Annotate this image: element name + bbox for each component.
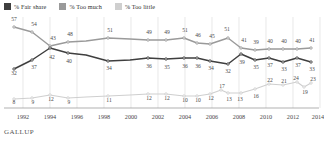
data-point-too-much [13,26,15,28]
value-label-too-much: 41 [309,37,315,43]
legend-swatch-icon [115,3,122,10]
value-label-fair-share: 40 [66,58,72,64]
data-point-too-much [31,31,33,33]
legend-label-too-much: % Too much [69,3,101,10]
data-point-fair-share [165,58,167,60]
x-axis-tick-label: 2000 [125,113,137,120]
value-label-too-much: 40 [281,38,287,44]
value-label-too-little: 13 [237,96,243,102]
value-label-too-little: 9 [32,99,35,105]
value-label-too-little: 11 [106,97,111,103]
value-label-too-much: 40 [295,38,301,44]
x-axis-tick-label: 1998 [98,113,110,120]
value-label-too-much: 49 [146,29,152,35]
data-point-too-much [254,49,256,51]
data-point-fair-share [183,57,185,59]
value-label-too-little: 16 [253,93,259,99]
value-label-too-little: 23 [310,76,316,82]
data-point-too-much [183,37,185,39]
source-attribution: GALLUP [4,128,34,136]
value-label-too-much: 57 [11,16,17,22]
data-point-too-much [165,39,167,41]
legend-label-too-little: % Too little [125,3,155,10]
plot-area: 8912911121210101217131316222124192357544… [0,17,323,112]
data-point-fair-share [196,57,198,59]
value-label-fair-share: 34 [106,65,112,71]
value-label-too-much: 49 [164,29,170,35]
value-label-fair-share: 42 [49,54,55,60]
data-point-too-much [240,47,242,49]
data-point-fair-share [282,61,284,63]
value-label-too-little: 17 [219,83,225,89]
data-point-fair-share [268,57,270,59]
data-point-fair-share [67,52,69,54]
value-label-fair-share: 33 [281,66,287,72]
value-label-fair-share: 35 [164,64,170,70]
data-point-fair-share [107,60,109,62]
value-label-too-much: 45 [209,33,215,39]
data-point-fair-share [296,57,298,59]
value-label-too-much: 39 [253,39,259,45]
data-point-too-little [310,82,312,84]
value-label-too-little: 10 [195,97,201,103]
x-axis-tick-label: 2012 [287,113,299,120]
x-axis-tick-label: 1996 [71,113,83,120]
value-label-too-little: 21 [281,78,287,84]
value-label-too-much: 54 [31,21,37,27]
value-label-fair-share: 35 [253,64,259,70]
data-point-too-much [227,37,229,39]
data-point-too-little [268,83,270,85]
data-point-too-much [296,48,298,50]
data-point-too-much [196,42,198,44]
value-label-too-little: 12 [164,95,170,101]
legend-label-fair-share: % Fair share [14,3,46,10]
x-axis-ticks: 1992199419961998200020022004200620082010… [0,113,323,125]
value-label-too-much: 41 [241,37,247,43]
legend-item-too-little: % Too little [115,3,155,10]
value-label-too-little: 24 [293,75,299,81]
data-point-too-little [296,81,298,83]
value-label-too-much: 40 [267,38,273,44]
value-label-fair-share: 36 [182,63,188,69]
value-label-too-much: 48 [67,31,73,37]
data-point-fair-share [31,59,33,61]
value-label-fair-share: 37 [295,62,301,68]
data-point-fair-share [310,61,312,63]
data-point-too-much [310,47,312,49]
value-label-fair-share: 39 [239,59,245,65]
data-point-too-much [282,48,284,50]
data-point-fair-share [240,53,242,55]
value-label-fair-share: 33 [309,66,315,72]
value-label-fair-share: 37 [31,64,37,70]
data-point-too-much [67,41,69,43]
data-point-too-much [107,37,109,39]
x-axis-tick-label: 1994 [44,113,56,120]
data-point-too-little [282,84,284,86]
value-label-too-much: 46 [195,32,201,38]
legend-swatch-icon [4,3,11,10]
data-point-too-little [254,88,256,90]
data-point-too-much [268,48,270,50]
x-axis-tick-label: 2014 [312,113,324,120]
value-label-too-little: 12 [146,95,152,101]
value-label-too-much: 51 [224,26,230,32]
data-point-too-much [209,43,211,45]
value-label-fair-share: 32 [11,70,17,76]
x-axis-tick-label: 2006 [206,113,218,120]
value-label-too-little: 12 [208,95,214,101]
data-point-too-little [303,86,305,88]
series-line-too-little [14,82,311,99]
data-point-fair-share [254,59,256,61]
x-axis-tick-label: 2008 [233,113,245,120]
value-label-too-much: 51 [182,27,188,33]
data-point-fair-share [209,60,211,62]
value-label-too-little: 10 [182,97,188,103]
x-axis-tick-label: 2004 [179,113,191,120]
value-label-too-little: 12 [48,96,54,102]
legend-swatch-icon [59,3,66,10]
value-label-fair-share: 37 [267,62,273,68]
chart-legend: % Fair share % Too much % Too little [4,3,168,10]
value-label-fair-share: 32 [225,68,231,74]
value-label-too-much: 43 [50,35,56,41]
